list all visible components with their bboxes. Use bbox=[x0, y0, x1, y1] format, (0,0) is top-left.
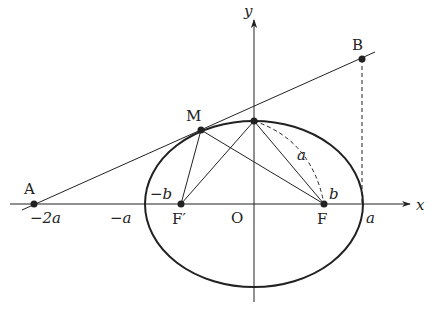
label-A: A bbox=[23, 180, 35, 198]
label-neg-2a: −2a bbox=[30, 209, 61, 227]
label-b: b bbox=[329, 185, 339, 203]
point-F bbox=[321, 201, 328, 208]
label-a-arc: a bbox=[297, 146, 306, 164]
ellipse-diagram: y x O A −2a B M F F′ −a a −b b a bbox=[0, 0, 434, 311]
label-pos-a: a bbox=[366, 209, 375, 227]
x-axis-label: x bbox=[416, 196, 425, 214]
point-B bbox=[359, 56, 366, 63]
label-neg-a: −a bbox=[110, 209, 132, 227]
label-Fprime: F′ bbox=[172, 210, 186, 228]
y-axis-label: y bbox=[243, 2, 253, 20]
label-M: M bbox=[186, 107, 201, 125]
label-F: F bbox=[317, 210, 327, 228]
origin-label: O bbox=[231, 209, 243, 227]
point-Fprime bbox=[178, 201, 185, 208]
label-B: B bbox=[352, 36, 363, 54]
segment-MF bbox=[201, 130, 324, 204]
point-M bbox=[198, 127, 205, 134]
label-neg-b: −b bbox=[150, 185, 172, 203]
point-A bbox=[31, 201, 38, 208]
point-top bbox=[251, 118, 258, 125]
